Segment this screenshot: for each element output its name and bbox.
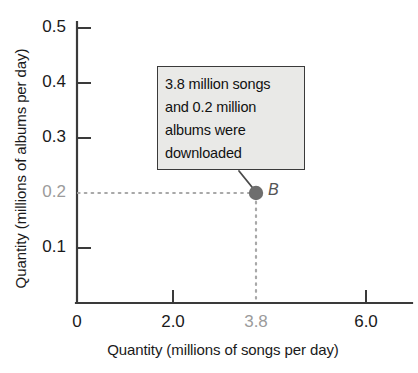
callout-line-4: downloaded [165,142,304,165]
data-point-label-b: B [268,181,279,199]
callout-line-1: 3.8 million songs [165,73,304,96]
callout-annotation-box: 3.8 million songs and 0.2 million albums… [157,66,305,170]
y-axis-title: Quantity (millions of albums per day) [12,9,29,329]
y-axis-ticks [77,28,90,248]
x-tick-label-6.0: 6.0 [336,312,396,332]
x-axis-title: Quantity (millions of songs per day) [0,341,418,358]
x-axis-ticks [173,291,366,303]
data-point-b [249,186,263,200]
x-tick-label-0: 0 [47,312,107,332]
scatter-chart: 3.8 million songs and 0.2 million albums… [0,0,418,373]
callout-line-3: albums were [165,119,304,142]
x-tick-label-3.8: 3.8 [226,312,286,332]
callout-line-2: and 0.2 million [165,96,304,119]
x-tick-label-2.0: 2.0 [143,312,203,332]
